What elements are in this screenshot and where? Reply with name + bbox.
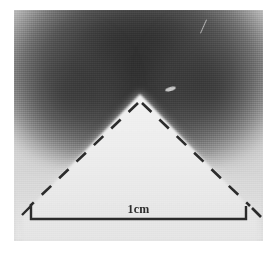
micrograph-photo-plate: 1cm: [14, 10, 263, 241]
figure-root: 1cm: [0, 0, 278, 255]
scale-bar-label: 1cm: [14, 203, 263, 215]
tip-bright-wedge: [23, 94, 257, 241]
